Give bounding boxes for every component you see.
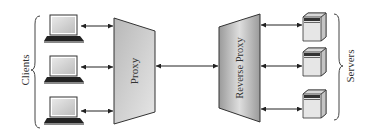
svg-text:Proxy: Proxy (128, 57, 140, 84)
laptop-icon (44, 56, 84, 84)
server-1 (303, 13, 326, 41)
svg-text:Clients: Clients (19, 54, 31, 85)
laptop-icon (44, 97, 84, 125)
client-laptop-3 (44, 97, 84, 125)
server-2 (303, 48, 326, 76)
clients-label: Clients (19, 54, 31, 85)
proxy-node: Proxy (114, 18, 155, 124)
server-tower-icon (303, 48, 326, 76)
server-tower-icon (303, 13, 326, 41)
servers-label: Servers (344, 50, 356, 83)
svg-text:Reverse Proxy: Reverse Proxy (234, 36, 245, 98)
clients-brace (31, 16, 40, 128)
client-laptop-1 (44, 15, 84, 43)
servers-brace (334, 14, 343, 120)
laptop-icon (44, 15, 84, 43)
server-3 (303, 90, 326, 118)
reverse-proxy-node: Reverse Proxy (219, 14, 260, 122)
diagram-canvas: Clients Proxy (0, 0, 372, 133)
svg-text:Servers: Servers (344, 50, 356, 83)
server-tower-icon (303, 90, 326, 118)
client-laptop-2 (44, 56, 84, 84)
